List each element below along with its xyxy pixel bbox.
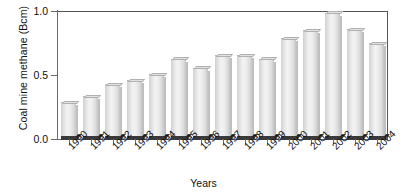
bar-body: [171, 59, 186, 139]
y-tick-label: 1.0: [0, 5, 48, 17]
bar-top-face: [304, 29, 321, 32]
bar-side-face: [384, 46, 387, 139]
bar-body: [303, 30, 318, 139]
bar-top-face: [62, 101, 79, 104]
x-axis-title: Years: [0, 177, 407, 189]
bar-top-face: [282, 37, 299, 40]
bar-side-face: [340, 16, 343, 139]
y-tick: [51, 75, 58, 76]
y-tick: [51, 139, 58, 140]
bar-side-face: [252, 58, 255, 139]
bar-side-face: [362, 32, 365, 139]
bar-body: [61, 102, 76, 139]
bar-body: [281, 38, 296, 139]
bar-top-face: [348, 28, 365, 31]
bar-side-face: [230, 58, 233, 139]
bar-1995: [171, 60, 186, 139]
bar-1994: [149, 75, 164, 139]
y-tick-label: 0.5: [0, 69, 48, 81]
bar-side-face: [274, 62, 277, 139]
bar-1999: [259, 60, 274, 139]
bar-chart: Coal mine methane (Bcm) 0.00.51.0 199019…: [0, 0, 407, 194]
y-tick-label: 0.0: [0, 133, 48, 145]
bar-2000: [281, 39, 296, 139]
bar-1997: [215, 56, 230, 139]
bar-top-face: [260, 57, 277, 60]
bar-side-face: [164, 77, 167, 139]
bar-body: [193, 68, 208, 139]
bar-1998: [237, 56, 252, 139]
bar-body: [347, 29, 362, 139]
bar-body: [259, 59, 274, 139]
bar-top-face: [238, 54, 255, 57]
bar-top-face: [172, 57, 189, 60]
bar-2001: [303, 31, 318, 139]
bar-top-face: [106, 83, 123, 86]
bar-body: [127, 80, 142, 139]
bar-side-face: [186, 62, 189, 139]
bar-top-face: [150, 73, 167, 76]
bar-top-face: [128, 79, 145, 82]
bar-side-face: [318, 33, 321, 139]
bar-top-face: [370, 42, 387, 45]
bar-side-face: [296, 41, 299, 139]
bar-body: [369, 43, 384, 139]
bar-2003: [347, 30, 362, 139]
bar-top-face: [84, 95, 101, 98]
bar-1996: [193, 69, 208, 139]
bar-2004: [369, 44, 384, 139]
bar-body: [215, 55, 230, 139]
bar-top-face: [326, 11, 343, 14]
bar-body: [149, 74, 164, 139]
bar-top-face: [216, 54, 233, 57]
bar-series: [58, 11, 388, 139]
bar-body: [237, 55, 252, 139]
bar-top-face: [194, 66, 211, 69]
bar-2002: [325, 14, 340, 139]
bar-1990: [61, 103, 76, 139]
bar-body: [325, 13, 340, 139]
bar-side-face: [208, 71, 211, 139]
y-tick: [51, 11, 58, 12]
